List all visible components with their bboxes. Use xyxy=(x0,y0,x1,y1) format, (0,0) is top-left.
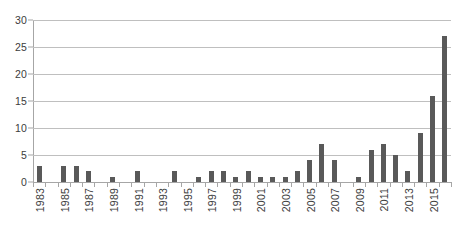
bar xyxy=(319,144,324,182)
bar xyxy=(369,150,374,182)
x-tick-mark xyxy=(365,183,366,187)
x-tick-mark xyxy=(193,183,194,187)
x-tick-mark xyxy=(217,183,218,187)
x-tick-label: 1983 xyxy=(34,188,46,212)
x-tick-mark xyxy=(242,183,243,187)
x-tick-mark xyxy=(426,183,427,187)
bar xyxy=(430,96,435,182)
y-tick-label: 30 xyxy=(15,14,27,26)
y-axis: 051015202530 xyxy=(0,0,33,228)
x-tick-label: 2001 xyxy=(255,188,267,212)
y-tick-label: 10 xyxy=(15,122,27,134)
x-tick-mark xyxy=(168,183,169,187)
x-tick-mark xyxy=(439,183,440,187)
x-tick-label: 1995 xyxy=(182,188,194,212)
x-tick-label: 1993 xyxy=(157,188,169,212)
x-tick-mark xyxy=(377,183,378,187)
x-tick-label: 1991 xyxy=(133,188,145,212)
bar xyxy=(332,160,337,182)
bar xyxy=(172,171,177,182)
x-tick-mark xyxy=(107,183,108,187)
x-tick-mark xyxy=(156,183,157,187)
bars-layer xyxy=(33,20,451,182)
x-tick-mark xyxy=(58,183,59,187)
x-tick-mark xyxy=(70,183,71,187)
y-tick-label: 20 xyxy=(15,68,27,80)
bar xyxy=(295,171,300,182)
y-tick-label: 0 xyxy=(21,176,27,188)
x-tick-mark xyxy=(279,183,280,187)
y-tick-label: 25 xyxy=(15,41,27,53)
x-tick-label: 1997 xyxy=(206,188,218,212)
x-tick-mark xyxy=(181,183,182,187)
x-tick-label: 1987 xyxy=(83,188,95,212)
x-tick-mark xyxy=(254,183,255,187)
x-tick-mark xyxy=(414,183,415,187)
x-axis: 1983198519871989199119931995199719992001… xyxy=(33,188,452,228)
x-tick-mark xyxy=(353,183,354,187)
x-tick-mark xyxy=(205,183,206,187)
x-tick-mark xyxy=(33,183,34,187)
bar xyxy=(61,166,66,182)
x-tick-label: 1989 xyxy=(108,188,120,212)
x-tick-label: 2015 xyxy=(428,188,440,212)
bar xyxy=(135,171,140,182)
bar-chart: 051015202530 198319851987198919911993199… xyxy=(0,0,459,228)
bar xyxy=(405,171,410,182)
y-tick-label: 15 xyxy=(15,95,27,107)
bar xyxy=(418,133,423,182)
x-tick-label: 1985 xyxy=(59,188,71,212)
bar xyxy=(381,144,386,182)
bar xyxy=(209,171,214,182)
bar xyxy=(221,171,226,182)
x-tick-label: 2007 xyxy=(329,188,341,212)
x-tick-mark xyxy=(144,183,145,187)
x-tick-label: 1999 xyxy=(231,188,243,212)
x-tick-mark xyxy=(94,183,95,187)
bar xyxy=(86,171,91,182)
x-tick-label: 2005 xyxy=(305,188,317,212)
x-tick-label: 2013 xyxy=(403,188,415,212)
x-tick-mark xyxy=(230,183,231,187)
x-tick-label: 2003 xyxy=(280,188,292,212)
bar xyxy=(307,160,312,182)
bar xyxy=(74,166,79,182)
x-tick-mark xyxy=(316,183,317,187)
x-tick-mark xyxy=(303,183,304,187)
x-tick-mark xyxy=(328,183,329,187)
bar xyxy=(393,155,398,182)
x-tick-mark xyxy=(119,183,120,187)
x-tick-mark xyxy=(291,183,292,187)
x-tick-mark xyxy=(82,183,83,187)
x-tick-label: 2009 xyxy=(354,188,366,212)
x-tick-mark xyxy=(402,183,403,187)
bar xyxy=(246,171,251,182)
x-tick-mark xyxy=(45,183,46,187)
x-tick-mark xyxy=(131,183,132,187)
x-tick-mark xyxy=(340,183,341,187)
bar xyxy=(37,166,42,182)
x-tick-mark xyxy=(267,183,268,187)
y-tick-label: 5 xyxy=(21,149,27,161)
x-tick-mark xyxy=(390,183,391,187)
x-tick-label: 2011 xyxy=(378,188,390,211)
bar xyxy=(442,36,447,182)
x-tick-mark xyxy=(451,183,452,187)
plot-area xyxy=(33,20,451,182)
